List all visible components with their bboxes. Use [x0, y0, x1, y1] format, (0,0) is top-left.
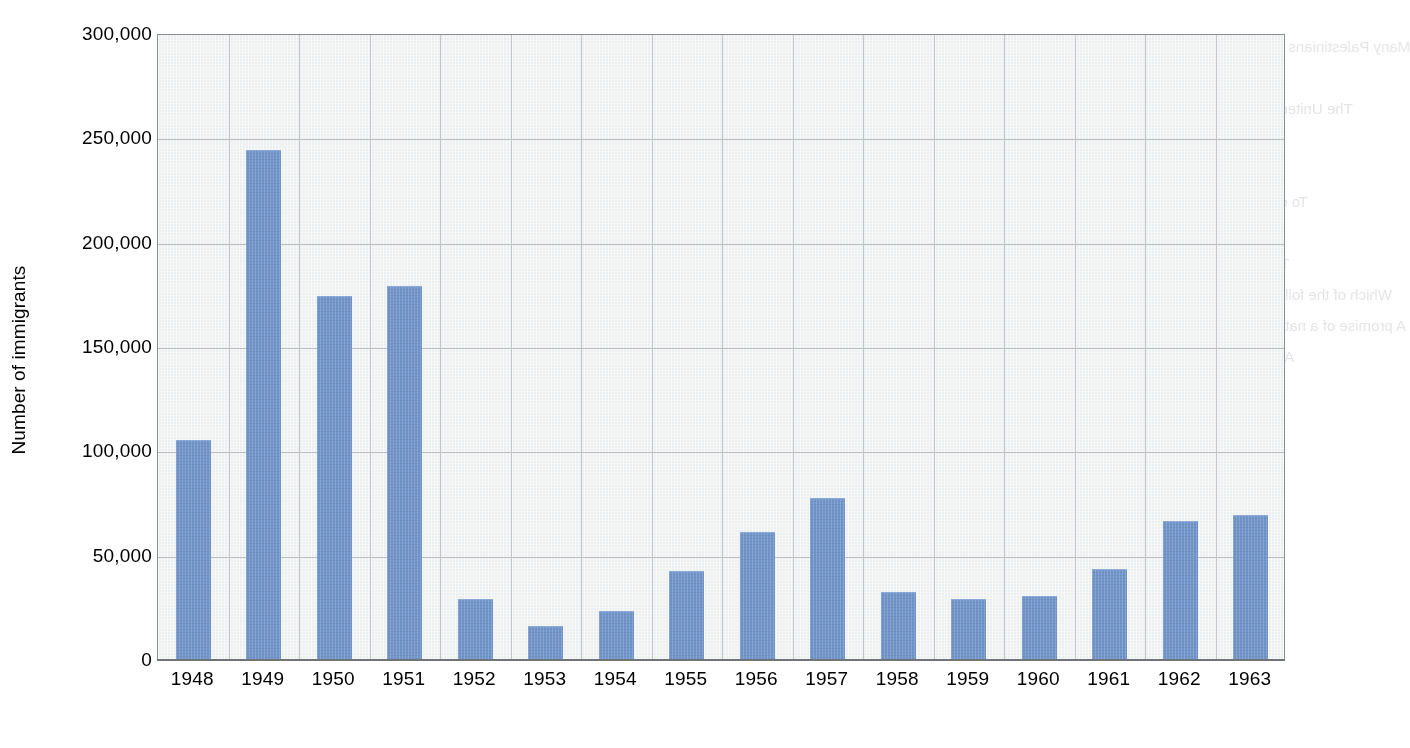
gridline-vertical	[793, 35, 794, 659]
y-tick-label: 300,000	[26, 23, 152, 45]
y-tick-label: 50,000	[26, 545, 152, 567]
y-tick-label: 250,000	[26, 127, 152, 149]
x-tick-label: 1953	[523, 668, 566, 690]
x-tick-label: 1959	[946, 668, 989, 690]
bar	[387, 286, 422, 660]
gridline-vertical	[581, 35, 582, 659]
bar	[951, 599, 986, 660]
bar	[881, 592, 916, 659]
y-tick-label: 200,000	[26, 232, 152, 254]
y-tick-label: 0	[26, 649, 152, 671]
gridline-vertical	[299, 35, 300, 659]
plot-area	[157, 34, 1285, 660]
gridline-vertical	[1216, 35, 1217, 659]
x-tick-label: 1951	[382, 668, 425, 690]
bar	[246, 150, 281, 659]
gridline-vertical	[370, 35, 371, 659]
gridline-vertical	[511, 35, 512, 659]
gridline-vertical	[1075, 35, 1076, 659]
x-tick-label: 1963	[1228, 668, 1271, 690]
bar	[1233, 515, 1268, 659]
gridline-horizontal	[158, 139, 1284, 140]
x-tick-label: 1957	[805, 668, 848, 690]
bar	[458, 599, 493, 660]
x-tick-label: 1950	[312, 668, 355, 690]
gridline-vertical	[863, 35, 864, 659]
x-tick-label: 1948	[171, 668, 214, 690]
bar	[1163, 521, 1198, 659]
bar	[599, 611, 634, 659]
bar	[810, 498, 845, 659]
bar	[528, 626, 563, 659]
bar	[176, 440, 211, 659]
bar	[669, 571, 704, 659]
x-axis-line	[157, 659, 1285, 661]
gridline-vertical	[1145, 35, 1146, 659]
bar	[1092, 569, 1127, 659]
gridline-vertical	[229, 35, 230, 659]
y-axis-tick-labels: 050,000100,000150,000200,000250,000300,0…	[26, 0, 152, 748]
x-tick-label: 1956	[735, 668, 778, 690]
gridline-vertical	[652, 35, 653, 659]
bar	[1022, 596, 1057, 659]
x-tick-label: 1955	[664, 668, 707, 690]
y-tick-label: 150,000	[26, 336, 152, 358]
bar	[317, 296, 352, 659]
x-tick-label: 1958	[876, 668, 919, 690]
gridline-vertical	[722, 35, 723, 659]
x-axis-tick-labels: 1948194919501951195219531954195519561957…	[157, 668, 1285, 702]
gridline-vertical	[934, 35, 935, 659]
gridline-vertical	[1004, 35, 1005, 659]
x-tick-label: 1952	[453, 668, 496, 690]
x-tick-label: 1949	[241, 668, 284, 690]
x-tick-label: 1961	[1087, 668, 1130, 690]
x-tick-label: 1954	[594, 668, 637, 690]
x-tick-label: 1962	[1158, 668, 1201, 690]
gridline-horizontal	[158, 244, 1284, 245]
x-tick-label: 1960	[1017, 668, 1060, 690]
bar	[740, 532, 775, 659]
y-tick-label: 100,000	[26, 440, 152, 462]
gridline-vertical	[440, 35, 441, 659]
